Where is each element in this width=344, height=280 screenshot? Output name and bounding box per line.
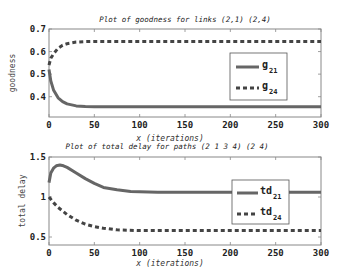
total-delay-y-axis-label: total delay (18, 174, 27, 227)
goodness-y-axis-label: goodness (8, 54, 17, 93)
legend-td24-label: td (260, 206, 272, 217)
y-tick-label: 0.4 (30, 92, 47, 102)
y-tick-label: 1 (41, 192, 46, 202)
x-tick-label: 0 (46, 120, 51, 130)
x-tick-label: 0 (46, 248, 51, 258)
x-tick-label: 200 (222, 120, 238, 130)
x-tick-label: 200 (222, 248, 238, 258)
legend-td21-subscript: 21 (273, 193, 281, 201)
x-tick-label: 150 (177, 248, 193, 258)
legend-g24-subscript: 24 (269, 88, 277, 96)
y-tick-label: 0.5 (30, 69, 46, 79)
y-tick-label: 0.5 (30, 232, 46, 242)
legend-td24-subscript: 24 (273, 214, 281, 222)
total-delay-x-axis-label: x (iterations) (135, 259, 203, 268)
y-tick-label: 0.7 (30, 24, 46, 34)
goodness-legend: g 21 g 24 (230, 53, 287, 100)
legend-g21-label: g (262, 59, 268, 70)
total-delay-legend: td 21 td 24 (232, 180, 289, 224)
figure: Plot of goodness for links (2,1) (2,4) 0… (0, 0, 344, 280)
x-tick-label: 300 (313, 248, 329, 258)
total-delay-plot: Plot of total delay for paths (2 1 3 4) … (18, 142, 329, 268)
goodness-legend-box (230, 53, 287, 100)
x-tick-label: 150 (177, 120, 193, 130)
legend-g21-subscript: 21 (269, 67, 277, 75)
x-tick-label: 250 (268, 248, 284, 258)
x-tick-label: 50 (89, 248, 100, 258)
legend-td21-label: td (260, 185, 272, 196)
x-tick-label: 100 (132, 248, 148, 258)
y-tick-label: 0.6 (30, 47, 46, 57)
x-tick-label: 250 (268, 120, 284, 130)
y-tick-label: 1.5 (30, 152, 46, 162)
x-tick-label: 300 (313, 120, 329, 130)
total-delay-plot-title: Plot of total delay for paths (2 1 3 4) … (65, 142, 268, 151)
x-tick-label: 50 (89, 120, 100, 130)
goodness-plot: Plot of goodness for links (2,1) (2,4) 0… (8, 15, 329, 143)
goodness-plot-title: Plot of goodness for links (2,1) (2,4) (99, 15, 271, 24)
legend-g24-label: g (262, 80, 268, 91)
x-tick-label: 100 (132, 120, 148, 130)
